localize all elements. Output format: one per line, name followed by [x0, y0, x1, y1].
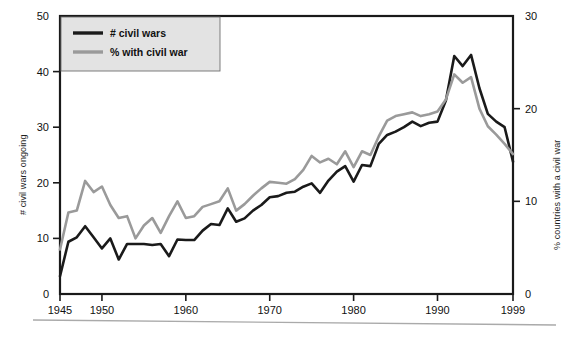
left-axis-ticks: 01020304050 — [37, 10, 60, 300]
figure-container: 01020304050 0102030 19451950196019701980… — [0, 0, 583, 337]
right-tick-label: 30 — [525, 10, 537, 22]
x-tick-label: 1980 — [341, 304, 365, 316]
left-tick-label: 10 — [37, 232, 49, 244]
chart-legend: # civil wars % with civil war — [61, 17, 220, 71]
x-tick-label: 1945 — [48, 304, 72, 316]
x-tick-label: 1950 — [90, 304, 114, 316]
right-tick-label: 0 — [525, 288, 531, 300]
left-tick-label: 20 — [37, 177, 49, 189]
x-tick-label: 1970 — [257, 304, 281, 316]
legend-label-civil-wars: # civil wars — [110, 27, 166, 39]
left-tick-label: 40 — [37, 66, 49, 78]
right-tick-label: 10 — [525, 195, 537, 207]
page-rule-divider — [33, 320, 556, 325]
left-tick-label: 0 — [43, 288, 49, 300]
right-axis-ticks: 0102030 — [513, 10, 537, 300]
legend-box — [61, 17, 220, 71]
left-tick-label: 30 — [37, 121, 49, 133]
legend-label-percent-civil-war: % with civil war — [110, 46, 188, 58]
x-tick-label: 1999 — [501, 304, 525, 316]
right-axis-title: % countries with a civil war — [552, 140, 562, 250]
x-axis-ticks: 1945195019601970198019901999 — [48, 294, 525, 316]
left-tick-label: 50 — [37, 10, 49, 22]
x-tick-label: 1990 — [425, 304, 449, 316]
right-tick-label: 20 — [525, 103, 537, 115]
left-axis-title: # civil wars ongoing — [18, 134, 28, 215]
civil-wars-line-chart: 01020304050 0102030 19451950196019701980… — [0, 0, 583, 337]
x-tick-label: 1960 — [174, 304, 198, 316]
